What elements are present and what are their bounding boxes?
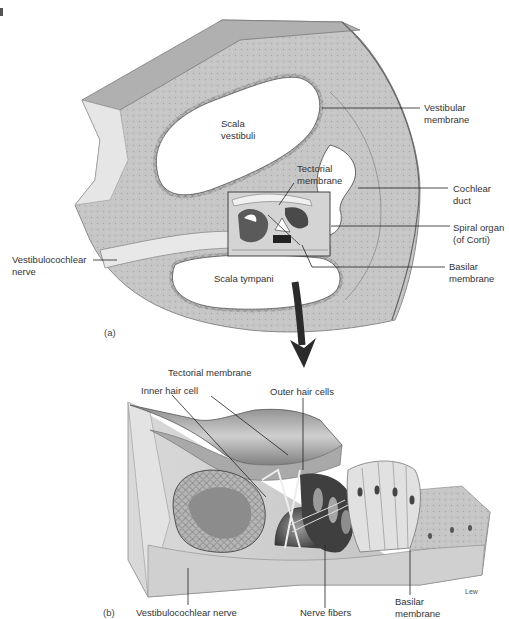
cochlea-illustration (0, 0, 509, 619)
label-vestibular-membrane: Vestibular membrane (424, 102, 469, 126)
label-basilar-membrane-a: Basilar membrane (449, 261, 494, 285)
panel-a-tag: (a) (104, 327, 116, 338)
label-basilar-membrane-b: Basilar membrane (395, 596, 440, 619)
artist-credit: Lew (465, 588, 478, 595)
cochlea-figure: Scala vestibuli Tectorial membrane Vesti… (0, 0, 509, 619)
label-line: Scala (221, 118, 255, 130)
label-line: Vestibular (424, 102, 469, 114)
label-outer-hair-cells: Outer hair cells (270, 386, 334, 398)
label-line: Spiral organ (453, 222, 504, 234)
panel-b-drawing (128, 395, 490, 608)
label-line: membrane (424, 114, 469, 126)
label-line: Vestibulocochlear (12, 254, 86, 266)
label-line: (of Corti) (453, 234, 504, 246)
label-line: membrane (449, 273, 494, 285)
label-line: membrane (395, 608, 440, 619)
panel-a-drawing (75, 20, 450, 368)
label-line: Tectorial (297, 163, 342, 175)
label-line: Basilar (449, 261, 494, 273)
label-line: Cochlear (453, 183, 491, 195)
label-inner-hair-cell: Inner hair cell (141, 385, 198, 397)
label-tectorial-membrane-b: Tectorial membrane (168, 367, 251, 379)
label-tectorial-membrane-a: Tectorial membrane (297, 163, 342, 187)
label-line: membrane (297, 175, 342, 187)
panel-b-tag: (b) (103, 607, 115, 618)
label-scala-vestibuli: Scala vestibuli (221, 118, 255, 142)
label-scala-tympani: Scala tympani (214, 273, 274, 285)
label-nerve-fibers: Nerve fibers (300, 607, 351, 619)
label-line: nerve (12, 266, 86, 278)
label-vestibulocochlear-nerve-a: Vestibulocochlear nerve (12, 254, 86, 278)
label-spiral-organ: Spiral organ (of Corti) (453, 222, 504, 246)
label-line: vestibuli (221, 130, 255, 142)
label-cochlear-duct: Cochlear duct (453, 183, 491, 207)
label-line: Basilar (395, 596, 440, 608)
label-line: duct (453, 195, 491, 207)
label-vestibulocochlear-nerve-b: Vestibulocochlear nerve (136, 607, 237, 619)
